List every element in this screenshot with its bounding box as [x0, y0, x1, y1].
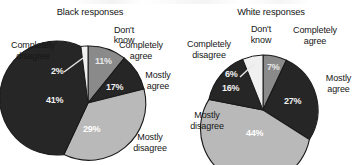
label-completely-disagree-white: Completely disagree [175, 39, 243, 60]
label-completely-agree-black: Completely agree [107, 40, 175, 61]
label-completely-disagree-black: Completely disagree [0, 40, 67, 61]
value-mostly-disagree-black: 29% [83, 124, 100, 134]
value-completely-agree-black: 11% [95, 56, 112, 66]
label-mostly-agree-white: Mostly agree [316, 73, 361, 94]
value-mostly-agree-white: 27% [284, 96, 301, 106]
chart-panel-black-responses: Black responses Don't know Completely di… [0, 0, 180, 165]
value-dont-know-black: 2% [51, 66, 64, 76]
label-mostly-disagree-black: Mostly disagree [122, 132, 178, 153]
label-mostly-agree-black: Mostly agree [136, 70, 180, 91]
value-mostly-disagree-white: 44% [246, 128, 263, 138]
label-completely-agree-white: Completely agree [281, 25, 349, 46]
chart-panel-white-responses: White responses Don't know Completely di… [181, 0, 361, 165]
value-completely-disagree-black: 41% [46, 95, 63, 105]
value-completely-agree-white: 7% [267, 62, 280, 72]
value-mostly-agree-black: 17% [106, 82, 123, 92]
label-mostly-disagree-white: Mostly disagree [179, 110, 235, 131]
pie-chart-figure: Black responses Don't know Completely di… [0, 0, 361, 165]
value-dont-know-white: 6% [225, 69, 238, 79]
value-completely-disagree-white: 16% [222, 83, 239, 93]
